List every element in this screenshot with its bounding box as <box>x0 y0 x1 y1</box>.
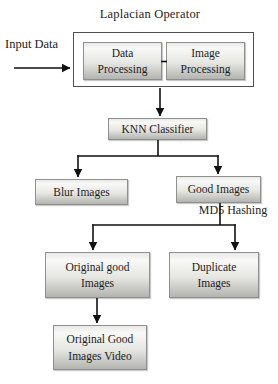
node-image-processing-label: Image Processing <box>181 45 231 77</box>
node-data-processing-label: Data Processing <box>98 45 148 77</box>
node-good-images: Good Images <box>176 176 261 203</box>
node-data-processing: Data Processing <box>83 42 162 80</box>
node-duplicate-images: Duplicate Images <box>169 252 259 298</box>
node-knn-classifier: KNN Classifier <box>108 118 207 140</box>
flowchart-canvas: Laplacian Operator Input Data Data Proce… <box>0 0 278 384</box>
node-original-good-images-video: Original Good Images Video <box>53 325 147 370</box>
node-blur-images: Blur Images <box>35 179 128 205</box>
node-good-images-label: Good Images <box>188 181 250 197</box>
node-original-good-images-label: Original good Images <box>65 259 129 291</box>
node-blur-images-label: Blur Images <box>53 184 110 200</box>
node-original-good-images-video-label: Original Good Images Video <box>67 331 134 363</box>
input-data-label: Input Data <box>5 37 67 52</box>
node-original-good-images: Original good Images <box>45 252 150 298</box>
node-duplicate-images-label: Duplicate Images <box>192 259 237 291</box>
diagram-title: Laplacian Operator <box>73 7 227 22</box>
node-knn-classifier-label: KNN Classifier <box>122 121 194 137</box>
md5-hashing-label: MD5 Hashing <box>193 203 273 218</box>
node-image-processing: Image Processing <box>166 42 245 80</box>
